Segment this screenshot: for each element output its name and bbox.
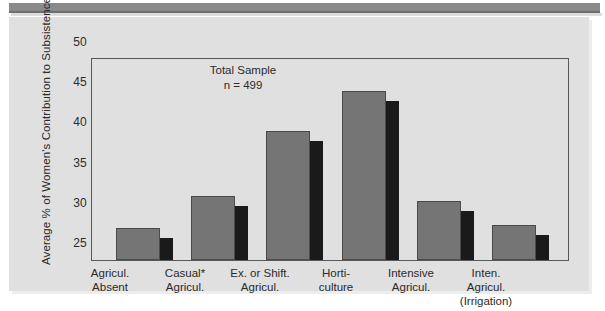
bar-side-agricul-absent xyxy=(160,238,173,260)
x-label-line1: Inten. xyxy=(438,266,534,280)
bar-side-horticulture xyxy=(386,101,399,260)
panel-shadow-right xyxy=(589,20,592,294)
sample-annotation-line1: Total Sample xyxy=(178,63,308,78)
bar-face-agricul-absent xyxy=(116,228,160,260)
bar-side-inten-agricul-irrigation xyxy=(536,235,549,260)
y-tick-label-40: 40 xyxy=(61,115,87,129)
y-tick-label-50: 50 xyxy=(61,35,87,49)
sample-annotation: Total Sample n = 499 xyxy=(178,63,308,93)
y-tick-label-35: 35 xyxy=(61,156,87,170)
bar-face-casual-agricul xyxy=(191,196,235,260)
bar-side-intensive-agricul xyxy=(461,211,474,260)
bar-side-ex-or-shift-agricul xyxy=(310,141,323,260)
bar-face-inten-agricul-irrigation xyxy=(492,225,536,260)
y-tick-label-25: 25 xyxy=(61,236,87,250)
x-label-inten-agricul-irrigation: Inten. Agricul. (Irrigation) xyxy=(438,266,534,308)
x-label-line3: (Irrigation) xyxy=(438,294,534,308)
x-label-line2: Agricul. xyxy=(438,280,534,294)
sample-annotation-line2: n = 499 xyxy=(178,78,308,93)
bar-face-ex-or-shift-agricul xyxy=(266,131,310,260)
y-axis-title: Average % of Women's Contribution to Sub… xyxy=(40,65,52,265)
top-rule-decoration xyxy=(9,3,600,13)
bar-face-intensive-agricul xyxy=(417,201,461,260)
plot-area: Total Sample n = 499 xyxy=(91,58,569,261)
chart-panel: Average % of Women's Contribution to Sub… xyxy=(9,17,589,291)
chart-figure: Average % of Women's Contribution to Sub… xyxy=(0,0,605,311)
y-tick-label-45: 45 xyxy=(61,75,87,89)
y-tick-label-30: 30 xyxy=(61,196,87,210)
bar-side-casual-agricul xyxy=(235,206,248,260)
bar-face-horticulture xyxy=(342,91,386,260)
top-rule-shadow xyxy=(11,13,602,16)
